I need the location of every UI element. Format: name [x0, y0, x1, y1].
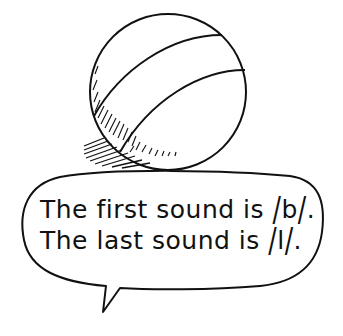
slash-close: /	[298, 190, 307, 229]
phonics-illustration: The first sound is /b/. The last sound i…	[0, 0, 343, 336]
line-1-period: .	[307, 195, 315, 224]
slash-close: /	[285, 221, 294, 260]
slash-open: /	[268, 221, 277, 260]
ball-seam-upper	[94, 35, 222, 116]
ball-seam-lower	[120, 70, 245, 152]
ball-illustration-icon	[0, 0, 343, 336]
ball-outline	[90, 14, 246, 170]
speech-line-1: The first sound is /b/.	[40, 195, 315, 224]
line-1-text: The first sound is	[40, 195, 273, 224]
speech-line-2: The last sound is /l/.	[40, 226, 302, 255]
line-2-text: The last sound is	[40, 226, 268, 255]
line-1-phoneme: b	[281, 195, 297, 224]
line-2-period: .	[294, 226, 302, 255]
line-2-phoneme: l	[277, 226, 284, 255]
